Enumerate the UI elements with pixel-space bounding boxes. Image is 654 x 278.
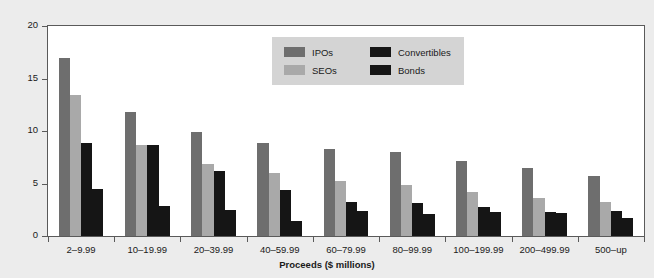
x-tick-mark [313,237,314,242]
legend-item-ipos: IPOs [284,43,337,61]
bar-seos-8 [600,202,611,236]
bar-convertibles-2 [214,171,225,236]
bar-convertibles-6 [478,207,489,236]
bar-seos-2 [202,164,213,236]
x-tick-mark [445,237,446,242]
y-tick: 0 [0,236,47,237]
x-tick-mark [512,237,513,242]
bar-convertibles-3 [280,190,291,236]
x-tick-mark [247,237,248,242]
bar-ipos-0 [59,58,70,237]
bar-seos-6 [467,192,478,236]
bar-ipos-2 [191,132,202,236]
legend-label-convertibles: Convertibles [398,47,451,58]
legend-label-ipos: IPOs [312,47,333,58]
legend-label-seos: SEOs [312,65,337,76]
y-tick-label: 20 [27,19,38,30]
x-tick-label: 80–99.99 [392,244,432,255]
bar-convertibles-7 [545,212,556,236]
y-tick: 15 [0,79,47,80]
y-tick-label: 15 [27,72,38,83]
legend-item-seos: SEOs [284,61,337,79]
bar-ipos-1 [125,112,136,236]
legend-item-convertibles: Convertibles [370,43,451,61]
bar-bonds-7 [556,213,567,236]
x-tick-mark [48,237,49,242]
bar-bonds-2 [225,210,236,236]
y-tick-label: 10 [27,124,38,135]
y-tick: 5 [0,184,47,185]
chart-figure: Total direct costs (%) 05101520 2–9.9910… [0,0,654,278]
x-tick-label: 10–19.99 [128,244,168,255]
x-tick-label: 20–39.99 [194,244,234,255]
y-tick: 10 [0,131,47,132]
legend-swatch-convertibles [370,47,391,57]
x-tick-mark [578,237,579,242]
x-tick-label: 500–up [595,244,627,255]
bar-ipos-8 [588,176,599,236]
bar-bonds-6 [490,212,501,236]
bar-seos-4 [335,181,346,236]
x-tick-label: 100–199.99 [453,244,503,255]
legend-swatch-seos [284,65,305,75]
bar-bonds-8 [622,218,633,236]
bar-ipos-4 [324,149,335,236]
bar-convertibles-1 [147,145,158,236]
x-tick-mark [114,237,115,242]
bar-seos-3 [269,173,280,236]
x-tick-label: 40–59.99 [260,244,300,255]
x-axis-label: Proceeds ($ millions) [0,259,654,270]
bar-bonds-5 [423,214,434,236]
bar-bonds-1 [159,206,170,236]
x-tick-label: 200–499.99 [520,244,570,255]
bar-ipos-6 [456,161,467,236]
x-tick-mark [379,237,380,242]
x-tick-label: 60–79.99 [326,244,366,255]
bar-convertibles-5 [412,203,423,236]
y-tick-label: 5 [33,177,38,188]
legend-item-bonds: Bonds [370,61,451,79]
x-tick-mark [644,237,645,242]
chart-legend: IPOs SEOs Convertibles Bonds [272,37,464,85]
legend-column-right: Convertibles Bonds [370,43,451,79]
bar-seos-5 [401,185,412,236]
x-tick-mark [180,237,181,242]
bar-ipos-7 [522,168,533,236]
bar-seos-1 [136,145,147,236]
legend-label-bonds: Bonds [398,65,425,76]
x-tick-label: 2–9.99 [67,244,96,255]
bar-bonds-3 [291,221,302,236]
bar-convertibles-8 [611,211,622,236]
bar-seos-0 [70,95,81,236]
y-tick: 20 [0,26,47,27]
bar-ipos-5 [390,152,401,236]
legend-column-left: IPOs SEOs [284,43,337,79]
bar-convertibles-0 [81,143,92,236]
y-tick-label: 0 [33,229,38,240]
bar-bonds-0 [92,189,103,236]
legend-swatch-bonds [370,65,391,75]
bar-convertibles-4 [346,202,357,236]
bar-seos-7 [533,198,544,236]
bar-ipos-3 [257,143,268,236]
legend-swatch-ipos [284,47,305,57]
bar-bonds-4 [357,211,368,236]
